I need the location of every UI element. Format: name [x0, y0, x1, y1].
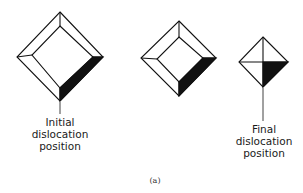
intermediate-pyramid-diamond	[141, 21, 216, 96]
initial-label: Initial dislocation position	[22, 116, 98, 152]
initial-label-line-1: Initial	[22, 116, 98, 128]
dislocation-shaded-face	[263, 62, 288, 87]
final-label-line-1: Final	[226, 123, 302, 135]
initial-label-line-2: dislocation	[22, 128, 98, 140]
final-label: Final dislocation position	[226, 123, 302, 159]
final-label-line-2: dislocation	[226, 135, 302, 147]
final-pyramid-diamond	[239, 37, 288, 121]
final-label-line-3: position	[226, 147, 302, 159]
dislocation-diagram	[0, 0, 303, 193]
figure-caption: (a)	[140, 176, 170, 185]
initial-pyramid-diamond	[17, 12, 103, 114]
initial-label-line-3: position	[22, 140, 98, 152]
